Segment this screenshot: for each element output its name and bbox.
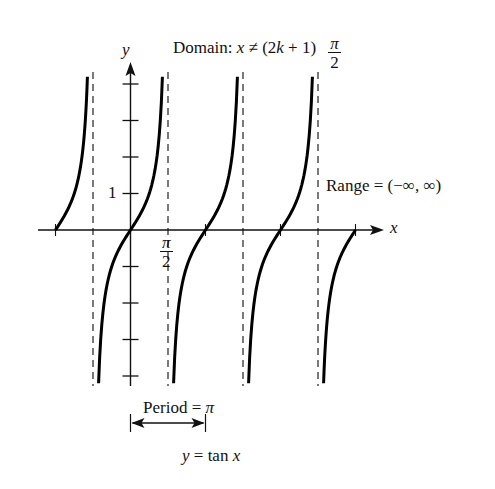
pi-over-2-fraction: π2 <box>328 35 341 71</box>
tan-branch <box>324 230 356 383</box>
period-annotation: Period = π <box>143 398 214 418</box>
domain-annotation: Domain: x ≠ (2k + 1) π2 <box>173 31 341 67</box>
equation-caption: y = tan x <box>182 446 240 466</box>
tangent-plot <box>0 0 495 489</box>
range-annotation: Range = (−∞, ∞) <box>326 176 441 196</box>
x-axis-label: x <box>390 218 398 238</box>
y-tick-label-1: 1 <box>108 183 117 203</box>
y-axis-label: y <box>122 40 130 60</box>
tan-branch <box>56 77 88 230</box>
x-tick-label-pi-over-2: π2 <box>160 234 173 270</box>
